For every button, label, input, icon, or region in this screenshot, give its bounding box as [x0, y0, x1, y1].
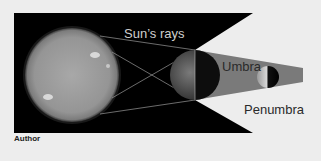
- sun-icon: [23, 26, 121, 124]
- sun-rays-label: Sun’s rays: [124, 26, 184, 41]
- earth-icon: [170, 50, 220, 100]
- image-credit: Author: [14, 134, 40, 143]
- umbra-label: Umbra: [222, 59, 261, 74]
- eclipse-diagram-graphic: [0, 0, 321, 161]
- penumbra-label: Penumbra: [244, 102, 304, 117]
- eclipse-diagram: Sun’s rays Umbra Penumbra Author: [0, 0, 321, 161]
